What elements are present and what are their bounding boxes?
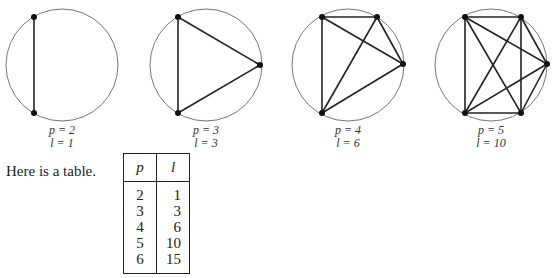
header-l: l [157, 154, 190, 182]
caption-l: l = 6 [336, 136, 359, 150]
table-header-row: p l [124, 154, 190, 182]
caption-p: p = 3 [193, 123, 219, 137]
caption-l: l = 10 [476, 136, 505, 150]
caption-p: p = 5 [478, 123, 504, 137]
circle-p2 [6, 9, 118, 121]
p-l-table: p l 2 1 3 3 4 6 5 10 6 15 [123, 153, 190, 274]
caption-p: p = 2 [49, 123, 75, 137]
table-row: 4 6 [124, 219, 190, 235]
cell-p: 5 [124, 235, 157, 251]
cell-l: 6 [157, 219, 190, 235]
caption-l: l = 1 [50, 136, 73, 150]
table-row: 2 1 [124, 182, 190, 204]
cell-l: 3 [157, 203, 190, 219]
header-p: p [124, 154, 157, 182]
caption-p: p = 4 [335, 123, 361, 137]
table-row: 3 3 [124, 203, 190, 219]
circle-p5 [435, 9, 547, 121]
cell-p: 2 [124, 182, 157, 204]
caption-p5: p = 5 l = 10 [451, 124, 531, 150]
cell-l: 10 [157, 235, 190, 251]
caption-p4: p = 4 l = 6 [308, 124, 388, 150]
caption-p3: p = 3 l = 3 [166, 124, 246, 150]
cell-l: 15 [157, 251, 190, 274]
cell-p: 3 [124, 203, 157, 219]
circle-p4 [292, 9, 404, 121]
intro-text: Here is a table. [6, 163, 96, 180]
table-row: 6 15 [124, 251, 190, 274]
caption-l: l = 3 [194, 136, 217, 150]
cell-l: 1 [157, 182, 190, 204]
circle-p3 [150, 9, 262, 121]
table-row: 5 10 [124, 235, 190, 251]
cell-p: 6 [124, 251, 157, 274]
caption-p2: p = 2 l = 1 [22, 124, 102, 150]
cell-p: 4 [124, 219, 157, 235]
